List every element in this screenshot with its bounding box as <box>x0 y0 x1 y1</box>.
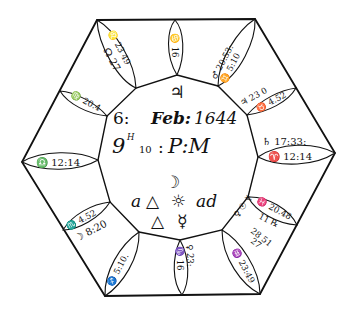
date-year: 1644 <box>194 108 237 128</box>
horoscope-chart: ♋ 16 ♂ 20:53: ♊ 5:10 ♃ 23 0 ♉ 4.52 ♄ 17:… <box>0 0 361 315</box>
time-ampm: P:M <box>167 134 210 158</box>
date-month: Feb: <box>150 108 191 128</box>
jupiter-symbol: ♃ <box>169 82 184 102</box>
aspect-a: a <box>131 191 141 211</box>
trine-symbol-2: △ <box>151 211 165 231</box>
time-sep: : <box>158 137 164 157</box>
label-right-lower-p0: ♀ ☉ ☿ <box>231 193 253 219</box>
label-bottom-outer: ♀ 23: <box>185 244 195 267</box>
label-right-leaf: ♈ 12:14 <box>268 150 312 163</box>
time-minute: 10 <box>139 144 152 155</box>
label-right-outer: ♄ 17:33: <box>262 136 306 147</box>
time-hour: 9 <box>112 134 125 158</box>
aspect-ad: ad <box>196 191 217 211</box>
sun-symbol: ☼ <box>171 191 186 211</box>
date-day: 6: <box>113 108 130 128</box>
trine-symbol-1: △ <box>146 191 160 211</box>
center-block: ♃ 6: Feb: 1644 9 H 10 : P:M ☽ a △ ☼ ad △… <box>112 82 237 231</box>
moon-symbol: ☽ <box>165 172 180 192</box>
time-hour-mark: H <box>126 132 135 142</box>
mercury-symbol: ☿ <box>177 211 187 231</box>
label-top-leaf: ♋ 16 <box>170 33 180 58</box>
label-bottom-leaf: ♑ 16 <box>175 246 185 271</box>
label-left-leaf: ♎ 12:14 <box>36 156 80 169</box>
